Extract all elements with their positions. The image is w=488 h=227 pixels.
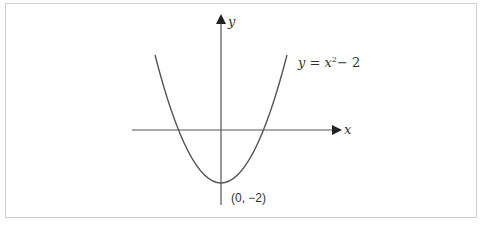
parabola-graph: y x y = x2− 2 (0, −2): [0, 0, 488, 227]
vertex-label: (0, −2): [231, 191, 266, 205]
equation-suffix: − 2: [337, 55, 360, 70]
y-axis-label: y: [227, 14, 236, 29]
equation-prefix: y = x: [297, 55, 333, 70]
x-axis-label: x: [344, 122, 352, 137]
equation-label: y = x2− 2: [297, 55, 360, 70]
